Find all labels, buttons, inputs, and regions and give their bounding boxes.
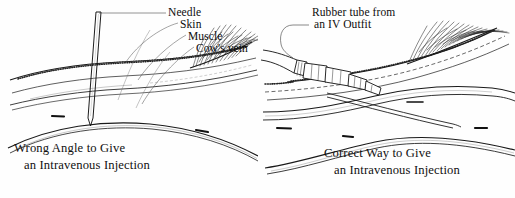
illustration-figure: Needle Skin Muscle Cow's vein Wrong Angl…: [0, 0, 515, 198]
callout-rubber-tube-line1: Rubber tube from: [312, 6, 395, 18]
correct-way-caption-line2: an Intravenous Injection: [324, 162, 460, 179]
callout-cows-vein: Cow's vein: [196, 42, 248, 54]
callout-needle-label: Needle: [168, 6, 201, 18]
callout-rubber-tube-line2: an IV Outfit: [312, 18, 395, 30]
correct-way-caption: Correct Way to Give an Intravenous Injec…: [324, 145, 460, 178]
wrong-angle-caption: Wrong Angle to Give an Intravenous Injec…: [14, 140, 150, 173]
callout-cows-vein-label: Cow's vein: [196, 42, 248, 54]
callout-muscle: Muscle: [188, 30, 222, 42]
callout-skin-label: Skin: [180, 18, 202, 30]
correct-way-caption-line1: Correct Way to Give: [324, 146, 431, 160]
callout-muscle-label: Muscle: [188, 30, 222, 42]
wrong-angle-caption-line2: an Intravenous Injection: [14, 157, 150, 174]
callout-needle: Needle: [168, 6, 201, 18]
correct-way-panel: Rubber tube from an IV Outfit Correct Wa…: [257, 0, 515, 198]
callout-skin: Skin: [180, 18, 202, 30]
callout-rubber-tube: Rubber tube from an IV Outfit: [312, 6, 395, 31]
wrong-angle-caption-line1: Wrong Angle to Give: [14, 141, 125, 155]
wrong-angle-panel: Needle Skin Muscle Cow's vein Wrong Angl…: [0, 0, 258, 198]
